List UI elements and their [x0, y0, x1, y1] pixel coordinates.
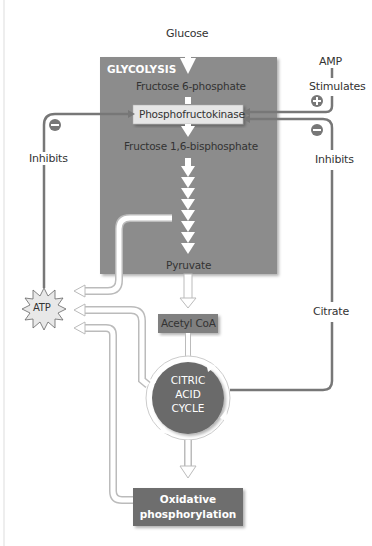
citrate-label: Citrate	[313, 305, 349, 318]
pyruvate-arrow-icon	[180, 274, 196, 308]
glucose-label: Glucose	[166, 27, 208, 40]
oxphos-atp-arrow-icon	[74, 322, 133, 500]
acetyl-coa-label: Acetyl CoA	[161, 317, 216, 329]
oxphos-label-1: Oxidative	[160, 493, 216, 505]
f16bp-label: Fructose 1,6-bisphosphate	[124, 140, 258, 152]
cycle-label-2: ACID	[175, 388, 201, 400]
cycle-label-3: CYCLE	[172, 402, 205, 414]
oxphos-label-2: phosphorylation	[140, 508, 237, 520]
amp-label: AMP	[319, 55, 342, 68]
atp-label: ATP	[33, 302, 51, 313]
glycolysis-title: GLYCOLYSIS	[107, 63, 176, 75]
pyruvate-label: Pyruvate	[166, 259, 211, 271]
cycle-label-1: CITRIC	[171, 374, 206, 386]
f6p-label: Fructose 6-phosphate	[136, 80, 246, 92]
atp-inhibits-label: Inhibits	[29, 152, 68, 165]
stimulates-label: Stimulates	[309, 80, 366, 93]
citrate-inhibits-label: Inhibits	[315, 153, 354, 166]
pfk-label: Phosphofructokinase	[139, 108, 245, 120]
cycle-to-oxphos-arrow-icon	[180, 440, 196, 478]
